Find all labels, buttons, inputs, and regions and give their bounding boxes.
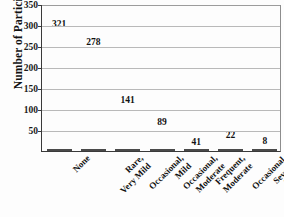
y-axis-tickmark [38,47,42,48]
y-axis-tick-label: 50 [29,127,39,136]
plot-area: 3212781418941228 [41,5,281,152]
x-axis-category-label: Rare,Very Mild [111,153,153,195]
bar [218,149,243,151]
x-axis-tick-labels: NoneRare,Very MildOccasional,MildOccasio… [41,153,281,217]
x-axis-category-label: Frequent,Moderate [213,153,254,194]
bar-column: 8 [252,148,277,151]
bar [81,149,106,151]
y-axis-tick-label: 200 [24,64,38,73]
y-axis-tick-label: 150 [24,85,38,94]
bar-value-label: 321 [47,19,72,29]
y-axis-tickmark [38,110,42,111]
y-axis-tickmark [38,89,42,90]
gridline [42,5,280,6]
y-axis-tick-label: 100 [24,106,38,115]
bar-column: 278 [81,34,106,151]
y-axis-tick-label: 350 [24,1,38,10]
gridline [42,26,280,27]
bar [47,149,72,151]
y-axis-tickmark [38,5,42,6]
x-axis-category-line: None [71,153,93,175]
bar-value-label: 8 [252,136,277,146]
y-axis-tickmark [38,68,42,69]
bar [252,149,277,151]
x-axis-category-label: Occasional,Severe [250,153,284,199]
y-axis-tick-label: 250 [24,43,38,52]
gridline [42,47,280,48]
y-axis-tick-label: 300 [24,22,38,31]
bar-column: 22 [218,142,243,151]
bar-series: 3212781418941228 [42,5,280,151]
bar-column: 41 [184,134,209,151]
gridline [42,68,280,69]
bar-chart: Number of Participants 50100150200250300… [0,0,284,217]
y-axis-tick-labels: 50100150200250300350 [14,0,38,160]
gridline [42,89,280,90]
gridline [42,131,280,132]
x-axis-category-label: Occasional,Mild [147,153,193,199]
bar-value-label: 141 [115,95,140,105]
bar [115,149,140,151]
bar-value-label: 41 [184,137,209,147]
bar [184,149,209,151]
gridline [42,110,280,111]
bar-column: 141 [115,92,140,151]
bar-value-label: 89 [150,117,175,127]
y-axis-tickmark [38,131,42,132]
x-axis-category-label: None [71,153,93,175]
y-axis-tickmark [38,26,42,27]
bar [150,149,175,151]
bar-column: 89 [150,114,175,151]
